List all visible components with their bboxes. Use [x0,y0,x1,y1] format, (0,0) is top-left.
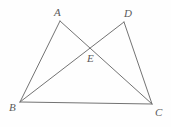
segment-BC [20,102,152,104]
vertex-label-C: C [155,107,162,118]
segment-BD [20,22,124,102]
vertex-label-E: E [87,53,94,64]
geometry-figure: A D E B C [0,0,171,127]
vertex-label-B: B [9,102,16,113]
vertex-label-D: D [124,8,132,19]
geometry-line-drawing [0,0,171,127]
vertex-label-A: A [54,7,61,18]
segment-BA [20,21,60,102]
